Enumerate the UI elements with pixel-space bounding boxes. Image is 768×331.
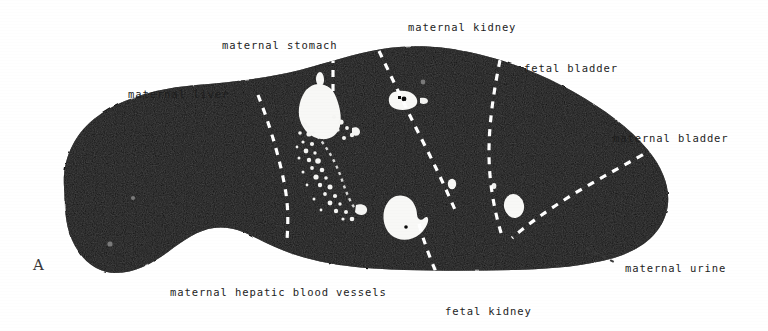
label-maternal-urine: maternal urine <box>625 263 726 274</box>
label-maternal-liver: maternal liver <box>128 89 229 100</box>
label-maternal-bladder: maternal bladder <box>613 133 729 144</box>
label-fetal-kidney: fetal kidney <box>445 306 532 317</box>
label-maternal-hepatic-blood-vessels: maternal hepatic blood vessels <box>170 287 387 298</box>
label-fetal-bladder: fetal bladder <box>524 63 618 74</box>
label-maternal-kidney: maternal kidney <box>408 22 516 33</box>
label-maternal-stomach: maternal stomach <box>222 40 338 51</box>
cross-section-image <box>0 0 768 331</box>
figure-root: maternal kidney maternal stomach fetal b… <box>0 0 768 331</box>
panel-letter: A <box>33 258 44 273</box>
small-bright-nodule <box>448 179 456 189</box>
